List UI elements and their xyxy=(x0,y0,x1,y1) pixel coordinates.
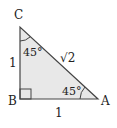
vertex-label-a: A xyxy=(100,94,110,108)
vertex-label-c: C xyxy=(14,8,23,22)
side-label-bc: 1 xyxy=(9,56,17,70)
triangle-diagram: C B A 1 1 √2 45° 45° xyxy=(0,0,117,128)
side-label-ab: 1 xyxy=(55,106,63,120)
triangle xyxy=(20,27,98,99)
angle-label-a: 45° xyxy=(62,85,82,98)
vertex-label-b: B xyxy=(8,94,17,108)
angle-label-c: 45° xyxy=(23,46,43,59)
side-label-ac: √2 xyxy=(60,51,75,65)
